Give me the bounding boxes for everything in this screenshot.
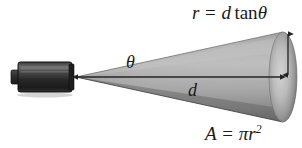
distance-label: d: [188, 81, 197, 99]
radius-formula-var-r: r: [192, 2, 199, 23]
area-formula-var-a: A: [205, 123, 217, 144]
laser-emitter: [11, 62, 74, 98]
radius-formula-var-d: d: [222, 2, 232, 23]
radius-formula-var-theta: θ: [258, 2, 267, 23]
radius-formula-label: r=dtanθ: [192, 3, 267, 22]
divergence-angle-label: θ: [126, 53, 135, 71]
radius-formula-equals: =: [205, 2, 216, 23]
figure-canvas: r=dtanθ A=πr2 θ d: [0, 0, 302, 148]
area-formula-equals: =: [222, 123, 233, 144]
area-formula-var-r: r: [248, 123, 255, 144]
area-formula-label: A=πr2: [205, 124, 262, 143]
area-formula-pi: π: [239, 123, 249, 144]
radius-formula-tan: tan: [234, 2, 257, 23]
area-formula-exponent: 2: [256, 123, 262, 136]
